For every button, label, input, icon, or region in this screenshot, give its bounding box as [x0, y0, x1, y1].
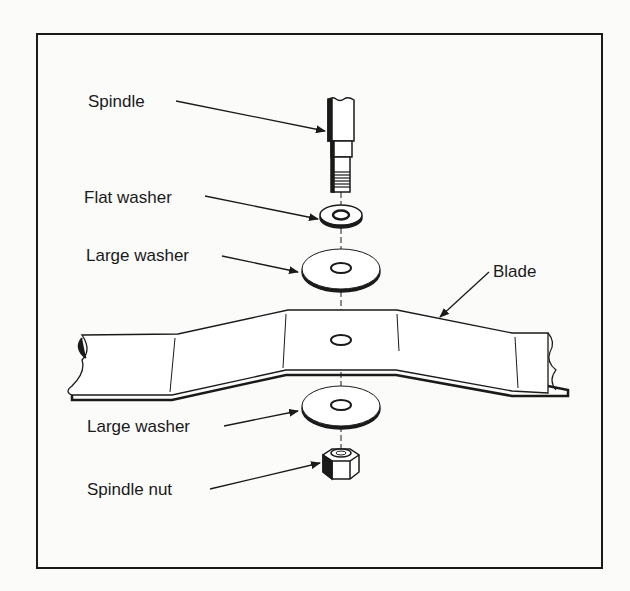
label-blade: Blade [493, 263, 536, 280]
flat-washer-icon [320, 205, 362, 228]
large-washer-bottom-icon [302, 386, 380, 429]
label-spindle: Spindle [88, 93, 145, 110]
large-washer-bottom-leader-arrow [224, 411, 298, 426]
spindle-nut-leader-arrow [210, 463, 320, 489]
label-flat-washer: Flat washer [84, 189, 172, 206]
label-large-washer-top: Large washer [86, 247, 189, 264]
assembly-illustration [0, 0, 630, 591]
label-large-washer-bottom: Large washer [87, 418, 190, 435]
spindle-nut-icon [323, 449, 359, 479]
large-washer-top-leader-arrow [222, 256, 298, 272]
blade-icon [68, 310, 568, 400]
label-spindle-nut: Spindle nut [87, 481, 172, 498]
blade-leader-arrow [440, 272, 489, 317]
spindle-leader-arrow [176, 101, 325, 131]
large-washer-top-icon [302, 249, 380, 292]
flat-washer-leader-arrow [205, 196, 318, 219]
spindle-icon [328, 98, 354, 192]
